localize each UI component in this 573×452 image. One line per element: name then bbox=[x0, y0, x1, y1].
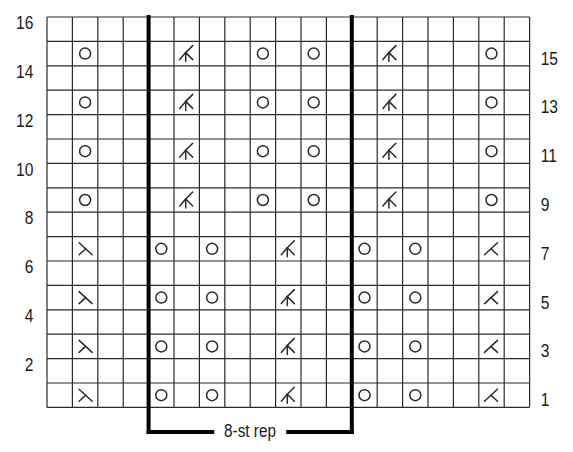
double-decrease-icon bbox=[281, 241, 294, 257]
double-decrease-icon bbox=[180, 192, 193, 208]
row-label-right: 13 bbox=[540, 97, 565, 116]
yarn-over-circle-icon bbox=[410, 243, 421, 254]
row-label-left: 6 bbox=[9, 257, 34, 276]
yarn-over-circle-icon bbox=[207, 243, 218, 254]
yarn-over-circle-icon bbox=[308, 97, 319, 108]
chart-symbols bbox=[79, 46, 497, 404]
double-decrease-icon bbox=[281, 338, 294, 354]
row-label-left: 10 bbox=[9, 160, 34, 179]
yarn-over-circle-icon bbox=[207, 390, 218, 401]
double-decrease-icon bbox=[180, 94, 193, 110]
yarn-over-circle-icon bbox=[80, 97, 91, 108]
yarn-over-circle-icon bbox=[257, 146, 268, 157]
row-label-right: 1 bbox=[540, 390, 565, 409]
k2tog-decrease-icon bbox=[485, 340, 498, 352]
yarn-over-circle-icon bbox=[308, 195, 319, 206]
yarn-over-circle-icon bbox=[410, 292, 421, 303]
k2tog-decrease-icon bbox=[485, 292, 498, 304]
double-decrease-icon bbox=[383, 94, 396, 110]
double-decrease-icon bbox=[281, 290, 294, 306]
yarn-over-circle-icon bbox=[359, 243, 370, 254]
chart-grid bbox=[47, 17, 530, 407]
yarn-over-circle-icon bbox=[410, 341, 421, 352]
double-decrease-icon bbox=[383, 192, 396, 208]
row-label-right: 5 bbox=[540, 293, 565, 312]
yarn-over-circle-icon bbox=[359, 341, 370, 352]
k2tog-decrease-icon bbox=[485, 243, 498, 255]
row-label-right: 11 bbox=[540, 146, 565, 165]
row-label-right: 15 bbox=[540, 49, 565, 68]
row-label-left: 16 bbox=[9, 13, 34, 32]
ssk-decrease-icon bbox=[79, 340, 92, 352]
double-decrease-icon bbox=[383, 143, 396, 159]
yarn-over-circle-icon bbox=[486, 97, 497, 108]
yarn-over-circle-icon bbox=[80, 146, 91, 157]
ssk-decrease-icon bbox=[79, 389, 92, 401]
yarn-over-circle-icon bbox=[207, 341, 218, 352]
knitting-chart bbox=[0, 0, 573, 452]
double-decrease-icon bbox=[180, 46, 193, 62]
yarn-over-circle-icon bbox=[207, 292, 218, 303]
yarn-over-circle-icon bbox=[156, 243, 167, 254]
double-decrease-icon bbox=[180, 143, 193, 159]
yarn-over-circle-icon bbox=[308, 48, 319, 59]
row-label-left: 14 bbox=[9, 62, 34, 81]
row-label-left: 12 bbox=[9, 111, 34, 130]
yarn-over-circle-icon bbox=[80, 48, 91, 59]
yarn-over-circle-icon bbox=[308, 146, 319, 157]
row-label-left: 8 bbox=[9, 208, 34, 227]
row-label-right: 3 bbox=[540, 341, 565, 360]
row-label-left: 4 bbox=[9, 306, 34, 325]
row-label-right: 9 bbox=[540, 195, 565, 214]
yarn-over-circle-icon bbox=[156, 292, 167, 303]
yarn-over-circle-icon bbox=[410, 390, 421, 401]
yarn-over-circle-icon bbox=[486, 195, 497, 206]
k2tog-decrease-icon bbox=[485, 389, 498, 401]
double-decrease-icon bbox=[383, 46, 396, 62]
yarn-over-circle-icon bbox=[257, 97, 268, 108]
yarn-over-circle-icon bbox=[156, 390, 167, 401]
repeat-label: 8-st rep bbox=[216, 422, 284, 440]
yarn-over-circle-icon bbox=[486, 48, 497, 59]
yarn-over-circle-icon bbox=[257, 48, 268, 59]
yarn-over-circle-icon bbox=[156, 341, 167, 352]
yarn-over-circle-icon bbox=[486, 146, 497, 157]
yarn-over-circle-icon bbox=[359, 390, 370, 401]
row-label-left: 2 bbox=[9, 355, 34, 374]
yarn-over-circle-icon bbox=[257, 195, 268, 206]
yarn-over-circle-icon bbox=[80, 195, 91, 206]
double-decrease-icon bbox=[281, 387, 294, 403]
row-label-right: 7 bbox=[540, 244, 565, 263]
yarn-over-circle-icon bbox=[359, 292, 370, 303]
ssk-decrease-icon bbox=[79, 243, 92, 255]
ssk-decrease-icon bbox=[79, 292, 92, 304]
